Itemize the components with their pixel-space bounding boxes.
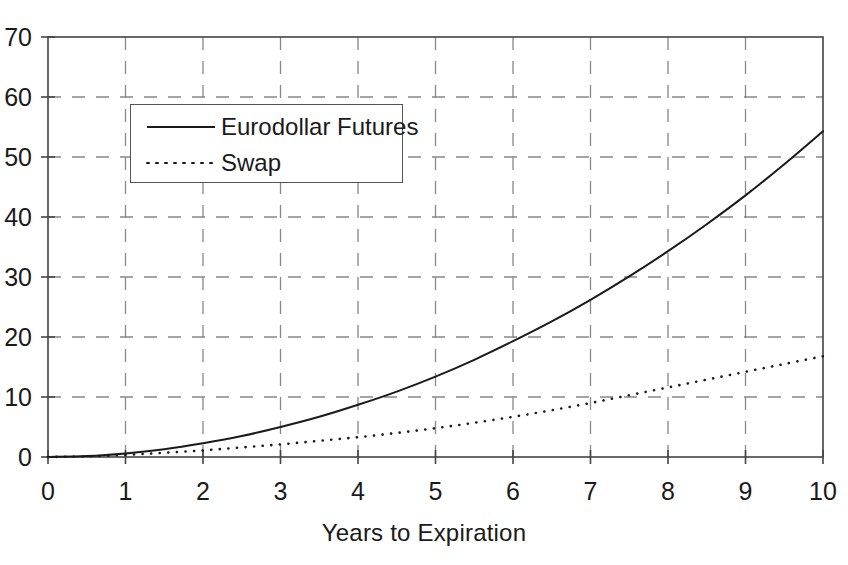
legend-label-swap: Swap [221, 151, 281, 175]
y-tick-label: 0 [0, 445, 32, 470]
legend-item-swap: Swap [131, 145, 402, 181]
gridlines [48, 37, 823, 457]
y-tick-label: 70 [0, 25, 32, 50]
y-tick-label: 20 [0, 325, 32, 350]
y-tick-label: 50 [0, 145, 32, 170]
x-tick-label: 1 [119, 479, 133, 504]
x-tick-label: 7 [584, 479, 598, 504]
legend-swatch-solid-line-icon [145, 120, 217, 134]
y-tick-label: 60 [0, 85, 32, 110]
chart-figure: 010203040506070 012345678910 Years to Ex… [0, 0, 848, 565]
x-tick-label: 2 [196, 479, 210, 504]
legend-label-eurodollar-futures: Eurodollar Futures [221, 115, 418, 139]
x-tick-label: 8 [661, 479, 675, 504]
x-tick-label: 4 [351, 479, 365, 504]
x-tick-label: 9 [739, 479, 753, 504]
y-tick-label: 10 [0, 385, 32, 410]
axis-ticks [41, 37, 823, 464]
legend-item-eurodollar-futures: Eurodollar Futures [131, 109, 402, 145]
x-tick-label: 10 [809, 479, 837, 504]
y-tick-label: 30 [0, 265, 32, 290]
x-tick-label: 3 [274, 479, 288, 504]
legend-swatch-dotted-line-icon [145, 156, 217, 170]
chart-legend: Eurodollar Futures Swap [130, 104, 403, 183]
x-tick-label: 0 [41, 479, 55, 504]
x-axis-title: Years to Expiration [0, 519, 848, 547]
x-tick-label: 6 [506, 479, 520, 504]
axis-frame [48, 37, 823, 457]
y-tick-label: 40 [0, 205, 32, 230]
x-tick-label: 5 [429, 479, 443, 504]
